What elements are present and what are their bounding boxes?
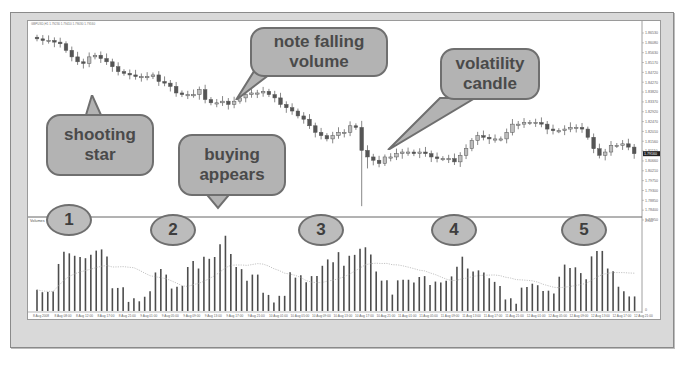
candle-body <box>424 152 428 154</box>
time-tick-label: 11 Aug 13:00 <box>462 314 481 318</box>
callout-volatility-candle: volatility candle <box>440 48 540 100</box>
candle-body <box>87 57 91 64</box>
time-tick-label: 9 Aug 17:00 <box>226 314 243 318</box>
candle-body <box>389 157 393 158</box>
candle-body <box>528 123 532 124</box>
price-tick-label: 1.84720 <box>645 71 658 75</box>
candle-body <box>302 116 306 119</box>
price-tick-label: 1.79750 <box>645 179 658 183</box>
candle-body <box>93 55 97 57</box>
price-tick-label: 1.82010 <box>645 130 658 134</box>
candle-body <box>203 90 207 100</box>
candle-body <box>169 83 173 86</box>
marker-5: 5 <box>561 214 607 246</box>
price-tick-label: 1.83820 <box>645 90 658 94</box>
time-tick-label: 8 Aug 08:00 <box>54 314 71 318</box>
candle-body <box>563 129 567 131</box>
callout-line-2: volume <box>274 52 365 72</box>
candle-body <box>192 95 196 96</box>
candle-body <box>627 144 631 147</box>
candle-body <box>174 86 178 93</box>
candle-body <box>366 150 370 157</box>
time-tick-label: 11 Aug 05:00 <box>419 314 438 318</box>
candle-body <box>342 132 346 133</box>
candle-body <box>99 55 103 58</box>
callout-line-1: shooting <box>64 125 136 145</box>
candle-body <box>122 72 126 74</box>
candle-body <box>586 129 590 137</box>
candle-body <box>592 137 596 148</box>
time-tick-label: 10 Aug 13:00 <box>334 314 353 318</box>
candle-body <box>47 40 51 41</box>
candle-body <box>429 154 433 157</box>
candle-body <box>285 104 289 107</box>
time-tick-label: 8 Aug 2008 <box>33 314 49 318</box>
candle-body <box>319 132 323 135</box>
candle-body <box>516 124 520 125</box>
candle-body <box>354 126 358 128</box>
price-tick-label: 1.80660 <box>645 159 658 163</box>
volume-axis-top: 2900 <box>645 219 653 223</box>
candle-body <box>134 75 138 77</box>
candle-body <box>111 62 115 67</box>
candle-body <box>551 129 555 131</box>
callout-line-2: candle <box>456 74 525 94</box>
callout-line-1: buying <box>199 145 264 165</box>
callout-line-2: appears <box>199 165 264 185</box>
candle-body <box>418 152 422 154</box>
candle-body <box>615 145 619 146</box>
candle-body <box>632 147 636 154</box>
callout-shooting-star: shooting star <box>46 114 154 176</box>
price-tick-label: 1.78850 <box>645 199 658 203</box>
candle-body <box>598 149 602 156</box>
callout-note-falling-volume: note falling volume <box>250 27 388 77</box>
candle-body <box>314 126 318 133</box>
candle-body <box>308 119 312 126</box>
candle-body <box>406 152 410 153</box>
current-price-label: 1.79160 <box>644 152 657 156</box>
time-tick-label: 12 Aug 21:00 <box>634 314 653 318</box>
candle-body <box>621 144 625 146</box>
candle-body <box>105 59 109 62</box>
time-tick-label: 11 Aug 17:00 <box>484 314 503 318</box>
candle-body <box>180 93 184 95</box>
price-tick-label: 1.80210 <box>645 169 658 173</box>
candle-body <box>331 136 335 139</box>
candle-body <box>70 50 74 57</box>
candle-body <box>522 123 526 125</box>
candle-body <box>534 123 538 124</box>
candle-body <box>151 75 155 77</box>
price-tick-label: 1.84270 <box>645 81 658 85</box>
candle-body <box>325 136 329 139</box>
candle-body <box>209 100 213 103</box>
candle-body <box>371 157 375 160</box>
price-tick-label: 1.82470 <box>645 120 658 124</box>
candle-body <box>360 127 364 150</box>
time-tick-label: 11 Aug 21:00 <box>505 314 524 318</box>
price-tick-label: 1.82920 <box>645 110 658 114</box>
candle-body <box>395 154 399 157</box>
candle-body <box>377 160 381 163</box>
candle-body <box>458 155 462 162</box>
price-tick-label: 1.78400 <box>645 208 658 212</box>
candle-body <box>221 101 225 103</box>
candle-body <box>511 124 515 132</box>
candle-body <box>383 157 387 164</box>
callout-line-1: note falling <box>274 32 365 52</box>
candle-body <box>116 67 120 72</box>
volume-axis-bottom: 0 <box>645 308 647 312</box>
candle-body <box>603 152 607 155</box>
price-tick-label: 1.81560 <box>645 140 658 144</box>
time-tick-label: 9 Aug 05:00 <box>162 314 179 318</box>
candle-body <box>76 57 80 62</box>
time-tick-label: 12 Aug 05:00 <box>548 314 567 318</box>
time-tick-label: 10 Aug 09:00 <box>312 314 331 318</box>
candle-body <box>215 103 219 104</box>
candle-body <box>41 39 45 41</box>
candle-body <box>140 77 144 78</box>
candle-body <box>505 132 509 139</box>
callout-buying-appears: buying appears <box>178 134 286 196</box>
candle-body <box>412 152 416 154</box>
price-tick-label: 1.79300 <box>645 189 658 193</box>
callout-line-1: volatility <box>456 54 525 74</box>
